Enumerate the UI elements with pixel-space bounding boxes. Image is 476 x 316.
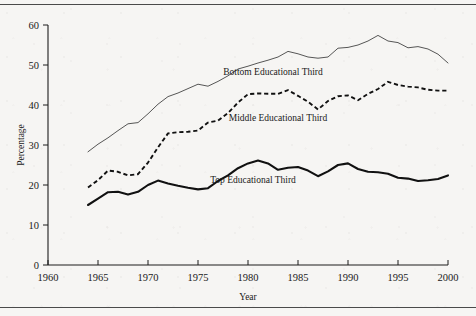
x-tick-label: 1970 xyxy=(138,272,159,283)
y-tick-label: 20 xyxy=(29,180,40,191)
x-tick-label: 1980 xyxy=(238,272,259,283)
y-tick-label: 0 xyxy=(34,260,39,271)
y-tick-label: 60 xyxy=(29,20,40,31)
x-tick-label: 1960 xyxy=(38,272,59,283)
axes-group: 0102030405060 19601965197019751980198519… xyxy=(29,20,459,283)
figure-page: 0102030405060 19601965197019751980198519… xyxy=(0,0,476,316)
x-axis-title: Year xyxy=(239,292,257,302)
series-line-middle-educational-third xyxy=(88,82,448,188)
x-tick-label: 1965 xyxy=(88,272,109,283)
series-label-top: Top Educational Third xyxy=(210,175,296,185)
x-tick-label: 1995 xyxy=(388,272,409,283)
y-axis-title: Percentage xyxy=(16,124,26,166)
y-tick-group: 0102030405060 xyxy=(29,20,49,271)
series-annotations: Bottom Educational Third Middle Educatio… xyxy=(210,67,327,185)
y-tick-label: 10 xyxy=(29,220,40,231)
series-label-bottom: Bottom Educational Third xyxy=(223,67,323,77)
line-chart: 0102030405060 19601965197019751980198519… xyxy=(0,0,476,316)
x-tick-label: 1975 xyxy=(188,272,209,283)
y-tick-label: 50 xyxy=(29,60,40,71)
x-tick-label: 2000 xyxy=(438,272,459,283)
x-tick-label: 1990 xyxy=(338,272,359,283)
y-tick-label: 40 xyxy=(29,100,40,111)
x-tick-label: 1985 xyxy=(288,272,309,283)
series-label-middle: Middle Educational Third xyxy=(229,113,328,123)
x-tick-group: 196019651970197519801985199019952000 xyxy=(38,260,459,283)
y-tick-label: 30 xyxy=(29,140,40,151)
